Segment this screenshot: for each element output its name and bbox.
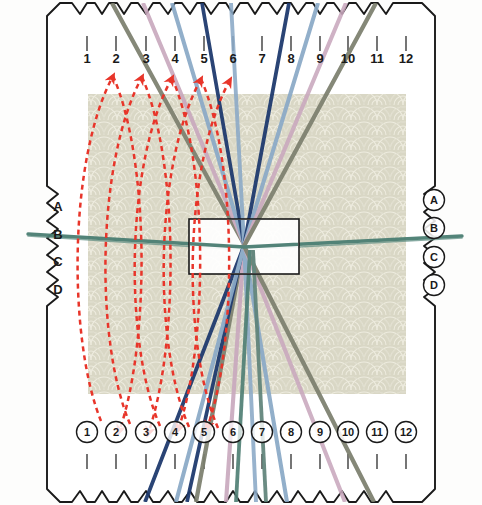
svg-text:10: 10 bbox=[342, 426, 354, 438]
bottom-label-3: 3 bbox=[136, 422, 157, 443]
svg-text:7: 7 bbox=[259, 426, 265, 438]
svg-text:11: 11 bbox=[371, 426, 383, 438]
svg-text:1: 1 bbox=[84, 426, 90, 438]
left-label-b: B bbox=[53, 227, 62, 242]
top-label-10: 10 bbox=[341, 51, 355, 66]
top-label-1: 1 bbox=[83, 51, 90, 66]
svg-text:A: A bbox=[430, 194, 438, 206]
left-label-d: D bbox=[53, 282, 62, 297]
right-label-c: C bbox=[424, 247, 445, 268]
top-label-2: 2 bbox=[112, 51, 119, 66]
svg-text:4: 4 bbox=[172, 426, 179, 438]
top-label-11: 11 bbox=[370, 51, 384, 66]
svg-text:5: 5 bbox=[201, 426, 207, 438]
bottom-label-8: 8 bbox=[281, 422, 302, 443]
right-label-d: D bbox=[424, 275, 445, 296]
bottom-label-10: 10 bbox=[338, 422, 359, 443]
right-label-b: B bbox=[424, 218, 445, 239]
top-label-12: 12 bbox=[399, 51, 413, 66]
bottom-label-4: 4 bbox=[165, 422, 186, 443]
svg-text:8: 8 bbox=[288, 426, 294, 438]
top-label-5: 5 bbox=[200, 51, 207, 66]
svg-text:3: 3 bbox=[143, 426, 149, 438]
bottom-label-2: 2 bbox=[106, 422, 127, 443]
bottom-label-1: 1 bbox=[77, 422, 98, 443]
bottom-label-5: 5 bbox=[194, 422, 215, 443]
svg-text:B: B bbox=[430, 222, 438, 234]
top-label-3: 3 bbox=[142, 51, 149, 66]
bottom-label-12: 12 bbox=[396, 422, 417, 443]
bottom-label-7: 7 bbox=[252, 422, 273, 443]
svg-text:C: C bbox=[430, 251, 438, 263]
svg-text:12: 12 bbox=[400, 426, 412, 438]
bottom-label-11: 11 bbox=[367, 422, 388, 443]
right-label-a: A bbox=[424, 190, 445, 211]
svg-text:6: 6 bbox=[230, 426, 236, 438]
diagram-canvas: 1 2 3 4 5 6 7 8 9 10 11 12 1 2 3 bbox=[0, 0, 482, 505]
svg-text:9: 9 bbox=[317, 426, 323, 438]
top-label-7: 7 bbox=[258, 51, 265, 66]
svg-text:D: D bbox=[430, 279, 438, 291]
top-label-6: 6 bbox=[229, 51, 236, 66]
bottom-label-6: 6 bbox=[223, 422, 244, 443]
top-label-8: 8 bbox=[287, 51, 294, 66]
weaving-draft-diagram: 1 2 3 4 5 6 7 8 9 10 11 12 1 2 3 bbox=[0, 0, 482, 505]
bottom-label-9: 9 bbox=[310, 422, 331, 443]
svg-text:2: 2 bbox=[113, 426, 119, 438]
left-label-a: A bbox=[53, 199, 63, 214]
top-label-4: 4 bbox=[171, 51, 179, 66]
left-label-c: C bbox=[53, 254, 63, 269]
top-label-9: 9 bbox=[316, 51, 323, 66]
